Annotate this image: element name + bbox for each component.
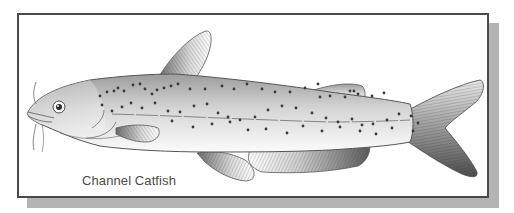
spot: [233, 88, 236, 91]
caudal-fin: [405, 80, 483, 177]
barbel-chin: [42, 124, 44, 152]
spot: [121, 106, 124, 109]
spot: [246, 83, 249, 86]
spot: [229, 121, 232, 124]
dorsal-fin: [158, 31, 211, 80]
spot: [217, 112, 220, 115]
spot: [167, 110, 170, 113]
spot: [344, 96, 347, 99]
spot: [247, 129, 250, 132]
spot: [351, 118, 354, 121]
spot: [265, 128, 268, 131]
spot: [193, 105, 196, 108]
spot: [372, 123, 375, 126]
spot: [383, 92, 386, 95]
spot: [170, 85, 173, 88]
spot: [281, 105, 284, 108]
spot: [156, 89, 159, 92]
spot: [139, 83, 142, 86]
head: [28, 80, 105, 131]
spot: [274, 91, 277, 94]
spot: [206, 103, 209, 106]
spot: [117, 87, 120, 90]
pelvic-fin: [197, 152, 254, 181]
spot: [189, 88, 192, 91]
spot: [163, 87, 166, 90]
figure-canvas: Channel Catfish: [0, 0, 514, 213]
eye: [53, 101, 65, 113]
spot: [289, 91, 292, 94]
spot: [221, 85, 224, 88]
spot: [337, 121, 340, 124]
spot: [130, 102, 133, 105]
spot: [204, 88, 207, 91]
spot: [311, 112, 314, 115]
spot: [359, 130, 362, 133]
spot: [391, 127, 394, 130]
spot: [267, 109, 270, 112]
barbel-lower: [33, 124, 36, 150]
spot: [151, 93, 154, 96]
spot: [101, 104, 104, 107]
spot: [329, 95, 332, 98]
spot: [254, 116, 257, 119]
spot: [295, 107, 298, 110]
spot: [227, 116, 230, 119]
spot: [111, 110, 114, 113]
spot: [357, 93, 360, 96]
figure-caption: Channel Catfish: [82, 173, 176, 188]
spot: [302, 125, 305, 128]
spot: [417, 122, 420, 125]
spot: [304, 87, 307, 90]
spot: [339, 126, 342, 129]
spot: [99, 95, 102, 98]
spot: [154, 102, 157, 105]
spot: [123, 90, 126, 93]
spot: [319, 96, 322, 99]
barbel-upper: [34, 82, 36, 104]
spot: [349, 90, 352, 93]
spot: [412, 130, 415, 133]
spot: [106, 91, 109, 94]
spot: [144, 88, 147, 91]
spot: [211, 123, 214, 126]
spot: [375, 133, 378, 136]
spot: [177, 83, 180, 86]
spot: [325, 117, 328, 120]
spot: [321, 130, 324, 133]
spot: [371, 95, 374, 98]
spot: [171, 120, 174, 123]
spot: [386, 119, 389, 122]
catfish-illustration: [0, 0, 514, 213]
spot: [361, 124, 364, 127]
spot: [410, 115, 413, 118]
spot: [113, 90, 116, 93]
spot: [239, 119, 242, 122]
spot: [179, 111, 182, 114]
spot: [398, 113, 401, 116]
spot: [192, 126, 195, 129]
spot: [141, 107, 144, 110]
spot: [317, 83, 320, 86]
spot: [353, 90, 356, 93]
spot: [261, 88, 264, 91]
spot: [132, 84, 135, 87]
spot: [286, 132, 289, 135]
